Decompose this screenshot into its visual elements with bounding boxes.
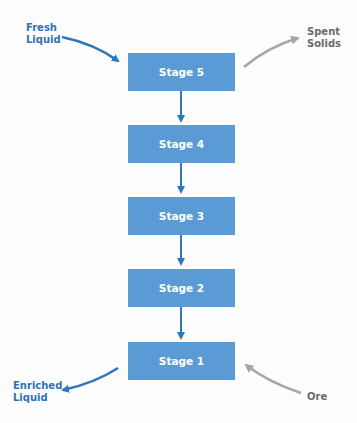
stage-5-label: Stage 5 — [159, 66, 204, 78]
fresh-liquid-label: Fresh Liquid — [26, 22, 61, 46]
stage-2-box: Stage 2 — [128, 269, 235, 307]
stage-1-label: Stage 1 — [159, 355, 204, 367]
ore-line1: Ore — [307, 391, 327, 403]
spent-solids-arrow — [244, 38, 298, 67]
stage-3-label: Stage 3 — [159, 210, 204, 222]
spent-solids-label: Spent Solids — [307, 26, 341, 50]
fresh-liquid-line1: Fresh — [26, 22, 61, 34]
stage-3-box: Stage 3 — [128, 197, 235, 235]
stage-5-box: Stage 5 — [128, 53, 235, 91]
enriched-liquid-arrow — [63, 368, 118, 390]
spent-solids-line1: Spent — [307, 26, 341, 38]
stage-4-label: Stage 4 — [159, 138, 204, 150]
fresh-liquid-arrow — [62, 37, 118, 61]
stage-2-label: Stage 2 — [159, 282, 204, 294]
enriched-liquid-label: Enriched Liquid — [13, 380, 62, 404]
enriched-liquid-line1: Enriched — [13, 380, 62, 392]
ore-label: Ore — [307, 391, 327, 403]
stage-4-box: Stage 4 — [128, 125, 235, 163]
stage-1-box: Stage 1 — [128, 342, 235, 380]
fresh-liquid-line2: Liquid — [26, 34, 61, 46]
spent-solids-line2: Solids — [307, 38, 341, 50]
ore-arrow — [246, 365, 301, 393]
enriched-liquid-line2: Liquid — [13, 392, 62, 404]
